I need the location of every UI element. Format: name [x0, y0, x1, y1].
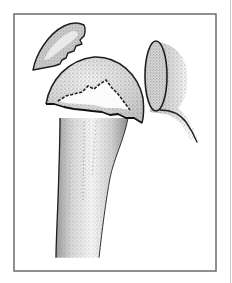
anatomical-illustration: Line-and-stipple illustration of a fract… [0, 0, 232, 283]
glenoid [145, 41, 167, 111]
